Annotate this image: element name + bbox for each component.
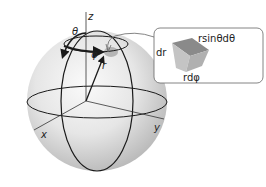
x-axis-label: x [40,129,47,140]
rdphi-label: rdφ [183,72,200,83]
spherical-coordinates-diagram: z x y θ φ r dr rsinθdθ rdφ [0,0,266,187]
volume-element-inset: dr rsinθdθ rdφ [154,28,263,83]
theta-label: θ [72,26,78,37]
phi-label: φ [91,49,98,60]
z-axis-label: z [87,11,94,22]
rsin-theta-dtheta-label: rsinθdθ [198,33,235,44]
dr-label: dr [156,47,167,58]
y-axis-label: y [153,122,161,133]
